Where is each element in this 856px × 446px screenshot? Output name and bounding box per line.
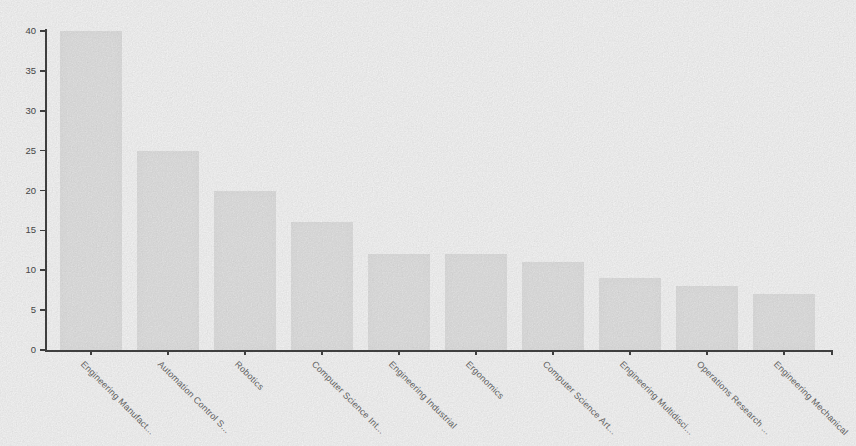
y-tick-label: 0 xyxy=(10,345,36,355)
x-axis-end-tick xyxy=(831,350,833,355)
y-tick-label: 25 xyxy=(10,146,36,156)
x-axis-line xyxy=(45,350,833,352)
y-tick-mark xyxy=(40,309,45,311)
bar-10 xyxy=(753,294,815,350)
x-tick-mark xyxy=(475,350,477,355)
y-tick-mark xyxy=(40,269,45,271)
y-tick-label: 35 xyxy=(10,66,36,76)
x-tick-label: Ergonomics xyxy=(464,359,506,401)
y-tick-mark xyxy=(40,349,45,351)
y-tick-mark xyxy=(40,150,45,152)
x-tick-label: Engineering Industrial xyxy=(387,359,459,431)
bar-8 xyxy=(599,278,661,350)
y-tick-label: 30 xyxy=(10,106,36,116)
y-tick-mark xyxy=(40,230,45,232)
y-tick-label: 10 xyxy=(10,265,36,275)
bar-9 xyxy=(676,286,738,350)
y-tick-label: 40 xyxy=(10,26,36,36)
x-tick-mark xyxy=(783,350,785,355)
y-tick-label: 15 xyxy=(10,225,36,235)
bar-6 xyxy=(445,254,507,350)
x-tick-label: Engineering Multidisci... xyxy=(618,359,696,437)
bar-2 xyxy=(137,151,199,350)
bar-5 xyxy=(368,254,430,350)
x-tick-label: Computer Science Art... xyxy=(541,359,619,437)
x-tick-mark xyxy=(398,350,400,355)
x-tick-mark xyxy=(706,350,708,355)
x-tick-mark xyxy=(321,350,323,355)
y-tick-mark xyxy=(40,70,45,72)
x-tick-mark xyxy=(244,350,246,355)
y-tick-mark xyxy=(40,110,45,112)
x-tick-label: Engineering Mechanical xyxy=(772,359,850,437)
y-tick-label: 20 xyxy=(10,186,36,196)
bar-7 xyxy=(522,262,584,350)
x-tick-mark xyxy=(90,350,92,355)
x-tick-label: Automation Control S... xyxy=(156,359,232,435)
scanned-chart-page: 0510152025303540 Engineering Manufact...… xyxy=(0,0,856,446)
y-tick-mark xyxy=(40,190,45,192)
x-tick-label: Engineering Manufact... xyxy=(79,359,157,437)
y-tick-mark xyxy=(40,30,45,32)
x-tick-mark xyxy=(629,350,631,355)
bar-1 xyxy=(60,31,122,350)
x-tick-label: Robotics xyxy=(233,359,266,392)
bar-chart: 0510152025303540 Engineering Manufact...… xyxy=(0,0,856,446)
bar-4 xyxy=(291,222,353,350)
x-tick-label: Operations Research ... xyxy=(695,359,773,437)
x-tick-mark xyxy=(552,350,554,355)
x-tick-label: Computer Science Int... xyxy=(310,359,387,436)
bar-3 xyxy=(214,191,276,351)
x-tick-mark xyxy=(167,350,169,355)
y-axis-line xyxy=(45,29,47,352)
y-tick-label: 5 xyxy=(10,305,36,315)
